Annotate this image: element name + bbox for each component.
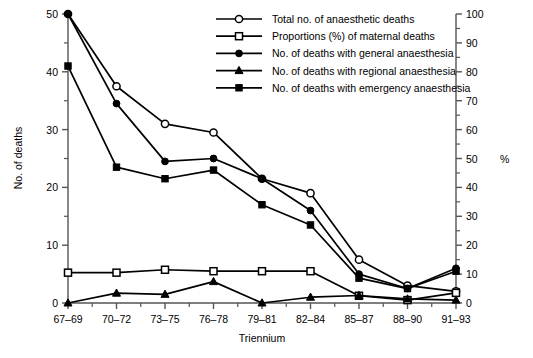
legend-marker-filled-square <box>236 85 242 91</box>
data-point-filled-circle <box>113 100 120 107</box>
data-point-open-circle <box>355 256 362 263</box>
data-point-open-square <box>113 269 120 276</box>
legend-marker-filled-circle <box>236 50 243 57</box>
data-point-filled-square <box>113 164 119 170</box>
data-point-open-square <box>162 266 169 273</box>
y2-axis-tick-label: 70 <box>466 95 478 107</box>
y-axis-title: No. of deaths <box>12 127 24 189</box>
data-point-filled-circle <box>65 11 72 18</box>
y2-axis-tick-label: 0 <box>466 297 472 309</box>
x-axis-tick-label: 88–90 <box>393 313 422 325</box>
data-point-filled-square <box>65 63 71 69</box>
data-point-filled-triangle <box>210 277 218 284</box>
data-point-filled-circle <box>259 175 266 182</box>
y-axis-tick-label: 50 <box>46 8 58 20</box>
x-axis-tick-label: 67–69 <box>53 313 82 325</box>
x-axis-tick-label: 85–87 <box>344 313 373 325</box>
chart-figure: 01020304050No. of deaths0102030405060708… <box>0 0 533 358</box>
x-axis-tick-label: 73–75 <box>150 313 179 325</box>
y-axis-tick-label: 20 <box>46 181 58 193</box>
x-axis-tick-label: 70–72 <box>102 313 131 325</box>
data-point-filled-square <box>404 285 410 291</box>
data-point-open-circle <box>210 129 217 136</box>
y2-axis-tick-label: 80 <box>466 66 478 78</box>
y2-axis-tick-label: 50 <box>466 153 478 165</box>
legend-label: No. of deaths with emergency anaesthesia <box>272 82 471 94</box>
y-axis-tick-label: 30 <box>46 124 58 136</box>
data-point-filled-circle <box>210 155 217 162</box>
data-point-open-square <box>307 268 314 275</box>
y-axis-tick-label: 0 <box>52 297 58 309</box>
legend-marker-open-circle <box>235 15 242 22</box>
data-point-filled-square <box>162 176 168 182</box>
data-point-filled-circle <box>162 158 169 165</box>
data-point-open-square <box>210 268 217 275</box>
legend-marker-open-square <box>236 33 243 40</box>
legend: Total no. of anaesthetic deathsProportio… <box>216 13 471 94</box>
data-point-open-circle <box>113 83 120 90</box>
x-axis-tick-label: 79–81 <box>247 313 276 325</box>
x-axis-tick-label: 82–84 <box>296 313 325 325</box>
data-point-filled-circle <box>307 207 314 214</box>
y2-axis-tick-label: 90 <box>466 37 478 49</box>
y2-axis-tick-label: 100 <box>466 8 484 20</box>
legend-label: No. of deaths with general anaesthesia <box>272 47 454 59</box>
legend-label: Proportions (%) of maternal deaths <box>272 30 435 42</box>
line-chart: 01020304050No. of deaths0102030405060708… <box>0 0 533 358</box>
x-axis-tick-label: 76–78 <box>199 313 228 325</box>
x-axis-title: Triennium <box>239 332 286 344</box>
x-axis-tick-label: 91–93 <box>441 313 470 325</box>
legend-label: No. of deaths with regional anaesthesia <box>272 65 456 77</box>
data-point-open-square <box>65 269 72 276</box>
y2-axis-title: % <box>500 153 509 165</box>
data-point-open-circle <box>161 120 168 127</box>
legend-label: Total no. of anaesthetic deaths <box>272 13 414 25</box>
data-point-filled-square <box>259 202 265 208</box>
data-point-filled-square <box>307 222 313 228</box>
y2-axis-tick-label: 10 <box>466 268 478 280</box>
y2-axis-tick-label: 60 <box>466 124 478 136</box>
y2-axis-tick-label: 30 <box>466 210 478 222</box>
data-point-filled-square <box>453 268 459 274</box>
data-point-filled-square <box>210 167 216 173</box>
y-axis-tick-label: 40 <box>46 66 58 78</box>
y-axis-tick-label: 10 <box>46 239 58 251</box>
y2-axis-tick-label: 20 <box>466 239 478 251</box>
data-point-open-circle <box>307 190 314 197</box>
y2-axis-tick-label: 40 <box>466 181 478 193</box>
data-point-filled-square <box>356 275 362 281</box>
data-point-open-square <box>259 268 266 275</box>
